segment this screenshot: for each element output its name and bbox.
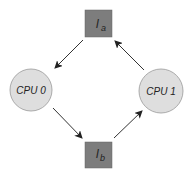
edge-cpu0-to-lb bbox=[53, 108, 82, 138]
lock-a-node: l a bbox=[85, 10, 112, 37]
cpu1-label: CPU 1 bbox=[146, 86, 175, 97]
lock-b-node: l b bbox=[85, 142, 112, 168]
cpu1-node: CPU 1 bbox=[139, 69, 183, 113]
lock-b-subscript: b bbox=[100, 153, 105, 163]
edge-lb-to-cpu1 bbox=[114, 111, 142, 138]
lock-a-subscript: a bbox=[101, 23, 106, 33]
cpu0-node: CPU 0 bbox=[10, 69, 52, 111]
edge-la-to-cpu0 bbox=[55, 40, 83, 68]
edge-cpu1-to-la bbox=[115, 41, 144, 70]
deadlock-cycle-diagram: l a CPU 0 CPU 1 l b bbox=[0, 0, 192, 178]
cpu0-label: CPU 0 bbox=[16, 85, 46, 96]
lock-a-label: l bbox=[96, 17, 99, 31]
lock-b-label: l bbox=[96, 147, 99, 161]
